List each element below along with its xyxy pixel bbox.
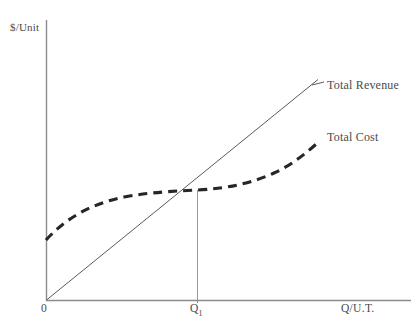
y-axis-label: $/Unit (10, 22, 39, 33)
x-axis-label: Q/U.T. (341, 303, 375, 315)
series-label-total-cost: Total Cost (327, 131, 379, 143)
series-label-total-revenue: Total Revenue (327, 79, 399, 91)
total-cost-curve (46, 143, 318, 241)
origin-label: 0 (41, 303, 47, 315)
total-revenue-line (47, 80, 319, 301)
chart-figure: $/Unit Q/U.T. 0 Q1 Total Revenue Total C… (0, 0, 417, 336)
x-tick-label-base: Q (190, 302, 198, 314)
x-tick-label-q1: Q1 (190, 303, 202, 317)
x-tick-label-subscript: 1 (199, 309, 203, 318)
chart-plot-area (0, 0, 417, 336)
